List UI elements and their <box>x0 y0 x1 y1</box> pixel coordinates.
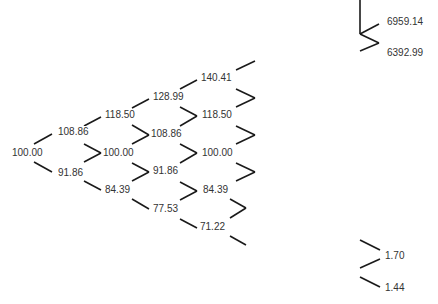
node-label: 100.00 <box>201 147 234 159</box>
node-label: 84.39 <box>104 184 131 196</box>
node-label: 100.00 <box>102 147 135 159</box>
node-label: 140.41 <box>200 72 233 84</box>
terminal-label-upper: 6959.14 <box>386 16 424 28</box>
node-label: 91.86 <box>57 167 84 179</box>
node-label: 100.00 <box>11 147 44 159</box>
node-label: 118.50 <box>104 109 136 121</box>
node-label: 77.53 <box>152 203 179 215</box>
terminal-label-lower: 1.44 <box>384 282 405 294</box>
node-label: 108.86 <box>150 128 183 140</box>
node-label: 84.39 <box>202 184 229 196</box>
node-label: 128.99 <box>152 91 185 103</box>
terminal-label-upper: 1.70 <box>384 250 405 262</box>
node-label: 91.86 <box>152 165 179 177</box>
node-label: 71.22 <box>199 221 226 233</box>
node-label: 108.86 <box>57 126 90 138</box>
terminal-label-lower: 6392.99 <box>386 47 424 59</box>
node-label: 118.50 <box>201 109 233 121</box>
